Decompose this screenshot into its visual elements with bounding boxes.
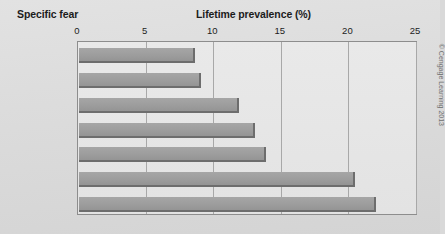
x-tick-label: 15 (275, 25, 286, 36)
x-tick-label: 20 (342, 25, 353, 36)
category-axis-title: Specific fear (17, 8, 78, 20)
x-tick-label: 0 (74, 25, 79, 36)
x-tick-label: 25 (410, 25, 421, 36)
bar (79, 73, 201, 88)
value-axis-title: Lifetime prevalence (%) (196, 8, 311, 20)
bar (79, 98, 239, 113)
bar (79, 48, 195, 63)
bar (79, 197, 376, 212)
copyright-credit: © Cengage Learning 2013 (438, 44, 445, 126)
bar (79, 147, 266, 162)
gridline-15 (281, 42, 282, 214)
gridline-25 (416, 42, 417, 214)
plot-area (77, 41, 417, 215)
gridline-20 (348, 42, 349, 214)
x-tick-label: 5 (142, 25, 147, 36)
x-tick-label: 10 (207, 25, 218, 36)
bar (79, 172, 355, 187)
bar (79, 123, 255, 138)
